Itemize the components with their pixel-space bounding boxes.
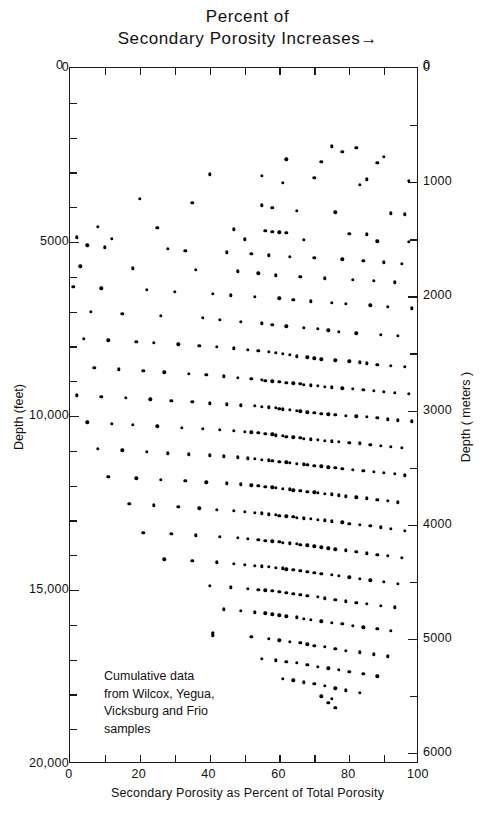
y-tick-label-right-2000: 2000 xyxy=(423,288,452,302)
scatter-point xyxy=(239,483,242,486)
y-tick-right-500 xyxy=(410,125,417,126)
scatter-point xyxy=(302,238,305,241)
y-tick-left-17000 xyxy=(70,660,77,661)
y-tick-right-5500 xyxy=(410,696,417,697)
scatter-point xyxy=(323,645,326,648)
scatter-point xyxy=(358,691,361,694)
scatter-point xyxy=(302,681,305,684)
scatter-point xyxy=(354,550,357,553)
scatter-point xyxy=(351,387,354,390)
scatter-point xyxy=(257,349,260,352)
scatter-point xyxy=(379,333,382,336)
scatter-point xyxy=(121,312,124,315)
scatter-point xyxy=(253,404,256,407)
scatter-point xyxy=(354,146,357,149)
scatter-point xyxy=(79,265,82,268)
scatter-point xyxy=(354,601,357,604)
scatter-point xyxy=(327,413,330,416)
y-tick-right-4000 xyxy=(408,525,417,526)
scatter-point xyxy=(288,353,291,356)
scatter-point xyxy=(365,497,368,500)
scatter-point xyxy=(337,330,340,333)
y-axis-title-left: Depth (feet) xyxy=(12,362,26,472)
chart-annotation: Cumulative datafrom Wilcox, Yegua,Vicksb… xyxy=(104,668,214,738)
scatter-point xyxy=(201,427,204,430)
x-tick-top-60 xyxy=(279,68,280,75)
scatter-point xyxy=(410,306,413,309)
scatter-point xyxy=(215,345,218,348)
scatter-point xyxy=(274,659,277,662)
scatter-point xyxy=(393,472,396,475)
scatter-point xyxy=(316,491,319,494)
scatter-point xyxy=(299,275,302,278)
scatter-point xyxy=(403,212,406,215)
scatter-point xyxy=(183,479,186,482)
scatter-point xyxy=(320,694,323,697)
scatter-point xyxy=(302,517,305,520)
scatter-point xyxy=(281,408,284,411)
scatter-point xyxy=(323,439,326,442)
scatter-point xyxy=(281,677,284,680)
y-tick-left-3000 xyxy=(70,172,77,173)
scatter-point xyxy=(257,431,260,434)
y-tick-label-right-3000: 3000 xyxy=(423,403,452,417)
scatter-point xyxy=(327,329,330,332)
scatter-point xyxy=(288,461,291,464)
scatter-point xyxy=(306,355,309,358)
scatter-point xyxy=(260,174,263,177)
scatter-point xyxy=(375,627,378,630)
scatter-point xyxy=(309,517,312,520)
scatter-point xyxy=(365,178,368,181)
scatter-point xyxy=(211,634,214,637)
scatter-point xyxy=(327,667,330,670)
scatter-point xyxy=(250,635,253,638)
scatter-point xyxy=(386,499,389,502)
y-tick-label-right-4000: 4000 xyxy=(423,517,452,531)
scatter-point xyxy=(306,463,309,466)
scatter-point xyxy=(403,365,406,368)
y-tick-right-1000 xyxy=(408,182,417,183)
scatter-point xyxy=(100,395,103,398)
y-tick-left-14000 xyxy=(70,555,77,556)
x-tick-label-20: 20 xyxy=(132,767,147,781)
scatter-point xyxy=(159,478,162,481)
scatter-point xyxy=(243,510,246,513)
scatter-point xyxy=(208,401,211,404)
x-tick-top-90 xyxy=(384,68,385,75)
scatter-point xyxy=(218,535,221,538)
scatter-point xyxy=(253,564,256,567)
scatter-point xyxy=(285,591,288,594)
x-tick-label-40: 40 xyxy=(201,767,216,781)
scatter-point xyxy=(334,211,337,214)
scatter-point xyxy=(285,567,288,570)
x-tick-bottom-70 xyxy=(314,755,315,762)
scatter-point xyxy=(260,405,263,408)
scatter-point xyxy=(288,640,291,643)
scatter-point xyxy=(375,240,378,243)
scatter-point xyxy=(96,225,99,228)
scatter-point xyxy=(309,384,312,387)
scatter-point xyxy=(302,437,305,440)
y-tick-right-6000 xyxy=(408,753,417,754)
scatter-point xyxy=(389,364,392,367)
scatter-plot-figure: Percent of Secondary Porosity Increases→… xyxy=(0,0,495,824)
scatter-point xyxy=(341,467,344,470)
scatter-point xyxy=(351,278,354,281)
scatter-point xyxy=(190,400,193,403)
scatter-point xyxy=(239,320,242,323)
scatter-point xyxy=(302,383,305,386)
scatter-point xyxy=(264,612,267,615)
scatter-point xyxy=(292,436,295,439)
scatter-point xyxy=(271,379,274,382)
scatter-point xyxy=(271,589,274,592)
scatter-point xyxy=(396,582,399,585)
scatter-point xyxy=(288,408,291,411)
scatter-point xyxy=(281,352,284,355)
scatter-point xyxy=(379,444,382,447)
scatter-point xyxy=(194,268,197,271)
scatter-point xyxy=(110,422,113,425)
scatter-point xyxy=(327,465,330,468)
scatter-point xyxy=(278,460,281,463)
scatter-point xyxy=(337,574,340,577)
scatter-point xyxy=(260,458,263,461)
